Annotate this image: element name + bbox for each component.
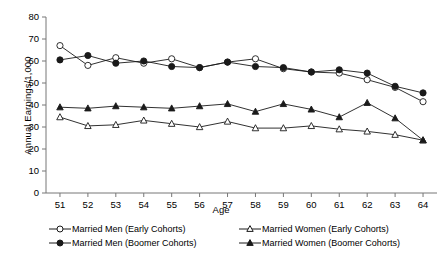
- filled-triangle-icon: [238, 237, 262, 249]
- data-point: [280, 65, 286, 71]
- legend-item-married-men-early-cohorts: Married Men (Early Cohorts): [48, 222, 197, 236]
- chart-legend: Married Men (Early Cohorts) Married Men …: [0, 222, 442, 256]
- data-point: [85, 52, 91, 58]
- data-point: [364, 77, 370, 83]
- data-point: [364, 99, 370, 105]
- legend-label: Married Men (Boomer Cohorts): [72, 237, 197, 249]
- series-open-circle: [57, 43, 426, 105]
- data-point: [420, 90, 426, 96]
- legend-item-married-women-early-cohorts: Married Women (Early Cohorts): [238, 222, 400, 236]
- filled-circle-icon: [48, 237, 72, 249]
- x-axis-title: Age: [0, 204, 442, 215]
- data-point: [308, 69, 314, 75]
- data-point: [392, 115, 398, 121]
- legend-column-right: Married Women (Early Cohorts) Married Wo…: [238, 222, 400, 250]
- data-point: [141, 58, 147, 64]
- data-point: [224, 59, 230, 65]
- data-point: [169, 63, 175, 69]
- legend-label: Married Men (Early Cohorts): [72, 223, 186, 235]
- data-point: [113, 60, 119, 66]
- data-point: [197, 65, 203, 71]
- data-point: [113, 103, 119, 109]
- data-point: [224, 118, 230, 124]
- data-point: [169, 56, 175, 62]
- chart-container: 0102030405060708051525354555657585960616…: [0, 0, 442, 261]
- series-open-triangle: [57, 114, 427, 143]
- data-point: [420, 99, 426, 105]
- data-point: [252, 56, 258, 62]
- open-circle-icon: [48, 223, 72, 235]
- data-point: [57, 104, 63, 110]
- series-filled-triangle: [57, 99, 427, 142]
- data-point: [141, 117, 147, 123]
- data-point: [364, 70, 370, 76]
- data-point: [336, 67, 342, 73]
- legend-item-married-men-boomer-cohorts: Married Men (Boomer Cohorts): [48, 236, 197, 250]
- data-point: [85, 62, 91, 68]
- data-point: [392, 83, 398, 89]
- data-point: [57, 57, 63, 63]
- legend-label: Married Women (Boomer Cohorts): [262, 237, 400, 249]
- open-triangle-icon: [238, 223, 262, 235]
- data-point: [252, 63, 258, 69]
- legend-column-left: Married Men (Early Cohorts) Married Men …: [48, 222, 197, 250]
- data-point: [308, 123, 314, 129]
- data-point: [280, 101, 286, 107]
- legend-item-married-women-boomer-cohorts: Married Women (Boomer Cohorts): [238, 236, 400, 250]
- data-point: [57, 114, 63, 120]
- legend-label: Married Women (Early Cohorts): [262, 223, 389, 235]
- data-point: [57, 43, 63, 49]
- data-point: [224, 101, 230, 107]
- y-tick-label: 0: [34, 187, 39, 198]
- y-axis-title: Annual Earnings/1,000: [22, 21, 33, 191]
